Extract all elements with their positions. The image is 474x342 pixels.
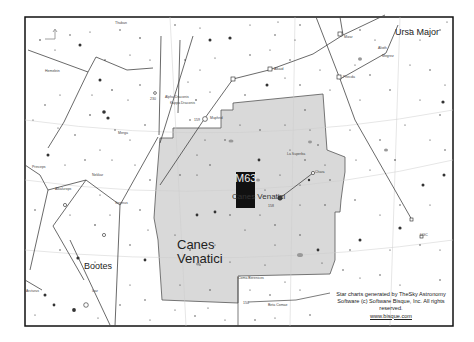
canes-venatici-label-line1: Canes <box>177 238 215 252</box>
m63-label: M63 <box>235 173 256 184</box>
credit-link[interactable]: www.bisque.com <box>370 313 412 319</box>
credit-block: Star charts generated by TheSky Astronom… <box>330 291 452 320</box>
star-label-alkalurops: Alkalurops <box>55 188 71 192</box>
credit-line-1: Star charts generated by TheSky Astronom… <box>330 291 452 298</box>
star-label-merga: Merga <box>118 132 128 136</box>
star-label-kappa-draconis: Kappa Draconis <box>170 102 195 106</box>
star-label-muphrid: Muphrid <box>210 117 223 121</box>
star-label-chara: Chara <box>315 171 325 175</box>
bootes-label: Bootes <box>84 262 112 271</box>
star-label-hemelein: Hemelein <box>45 70 60 74</box>
star-label-alpha-draconis: Alpha Draconis <box>165 96 189 100</box>
star-label-alkaid: Mizar <box>344 36 353 40</box>
canes-venatici-inline-label: Canes Venatici <box>232 193 285 201</box>
star-label-arcturus: Arcturus <box>26 290 39 294</box>
canes-venatici-label-line2: Venatici <box>177 252 223 266</box>
star-label-beta-comae: Beta Comae <box>268 304 287 308</box>
coma-berenices-label: Coma Berenices <box>238 277 264 281</box>
ursa-major-label: Ursa Major <box>395 28 439 37</box>
credit-line-2: Software (c) Software Bisque, Inc. All r… <box>330 298 452 305</box>
star-label-megrez: Megrez <box>382 55 394 59</box>
marker-ugc: UGC <box>420 234 428 238</box>
star-label-phecda: Phecda <box>343 76 355 80</box>
marker-159: 159 <box>194 119 200 123</box>
star-label-izar: Izar <box>92 290 98 294</box>
star-label-la-superba: La Superba <box>287 153 305 157</box>
star-label-princeps: Princeps <box>32 166 46 170</box>
marker-150: 150 <box>243 302 249 306</box>
star-label-alkaid-2: Alkaid <box>274 68 284 72</box>
marker-158: 158 <box>268 205 274 209</box>
marker-230: 230 <box>150 98 156 102</box>
star-label-alioth: Alioth <box>378 47 387 51</box>
star-label-seginus: Seginus <box>115 202 128 206</box>
credit-line-3: reserved. <box>330 305 452 312</box>
star-label-thuban: Thuban <box>115 22 127 26</box>
star-label-nekkar: Nekkar <box>92 174 103 178</box>
